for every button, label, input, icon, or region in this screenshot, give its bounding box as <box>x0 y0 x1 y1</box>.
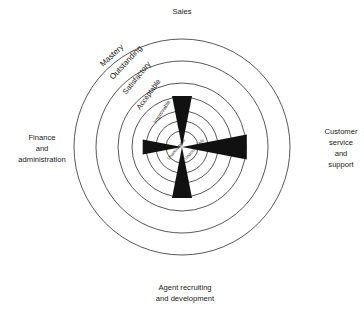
axis-label-customer-service-l2: service <box>329 138 353 147</box>
chart-canvas: Mastery Outstanding Satisfactory Accepta… <box>0 0 364 315</box>
axis-label-finance-l1: Finance <box>28 133 55 142</box>
axis-label-customer-service-l3: and <box>335 149 348 158</box>
axis-label-finance-l3: administration <box>18 155 65 164</box>
axis-label-agent-recruiting-l2: and development <box>156 294 215 303</box>
axis-label-customer-service: Customer <box>325 127 358 136</box>
axis-label-agent-recruiting-l1: Agent recruiting <box>158 283 211 292</box>
axis-label-sales: Sales <box>173 7 192 16</box>
axis-label-customer-service-l4: support <box>328 160 354 169</box>
axis-label-finance-l2: and <box>36 144 49 153</box>
radar-target-chart: Mastery Outstanding Satisfactory Accepta… <box>0 0 364 315</box>
